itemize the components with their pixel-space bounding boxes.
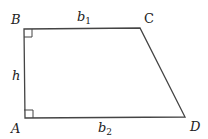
vertex-label-c: C bbox=[144, 11, 154, 26]
top-base-label: b1 bbox=[77, 9, 91, 26]
vertex-label-b: B bbox=[10, 12, 21, 27]
trapezoid-diagram: B C A D h b1 b2 bbox=[0, 0, 208, 139]
right-angle-marker-b bbox=[24, 29, 32, 37]
vertex-label-d: D bbox=[189, 119, 201, 134]
vertex-label-a: A bbox=[10, 121, 20, 136]
bottom-base-label: b2 bbox=[98, 120, 112, 137]
trapezoid-shape bbox=[24, 28, 185, 118]
height-label: h bbox=[12, 68, 20, 83]
